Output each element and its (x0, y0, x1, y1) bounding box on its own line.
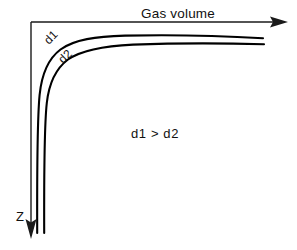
z-axis-label: Z (16, 209, 24, 224)
relation-annotation: d1 > d2 (131, 126, 179, 141)
curve-label-d1: d1 (41, 27, 61, 47)
curve-label-d2: d2 (55, 46, 75, 66)
z-axis-group (26, 22, 37, 239)
figure-canvas: Gas volume Z d1 d2 d1 > d2 (0, 0, 297, 250)
x-axis-label: Gas volume (141, 6, 215, 21)
caption-fragment (0, 244, 297, 250)
diagram-svg: Gas volume Z d1 d2 d1 > d2 (0, 0, 297, 250)
